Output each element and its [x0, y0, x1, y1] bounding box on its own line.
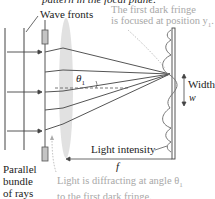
parallel-line2: bundle — [3, 175, 33, 187]
theta-sub: 1 — [81, 79, 85, 87]
diffract-sub: 1 — [179, 181, 183, 189]
fringe-note-line2: is focused at position y — [111, 15, 208, 26]
diffract-line2: to the first dark fringe. — [57, 191, 152, 199]
theta-label: θ1 — [76, 73, 85, 87]
wave-fronts-label: Wave fronts — [40, 9, 93, 20]
parallel-line3: of rays — [3, 187, 33, 199]
w-label: w — [189, 93, 196, 103]
fringe-note: The first dark fringe is focused at posi… — [111, 4, 214, 31]
wave-fronts-leader — [26, 16, 38, 32]
parallel-line1: Parallel — [3, 163, 37, 175]
slit-block-top — [42, 30, 48, 44]
diffract-line1: Light is diffracting at angle θ — [57, 175, 179, 186]
parallel-bundle-label: Parallel bundle of rays — [3, 163, 37, 199]
fringe-note-end: . — [211, 15, 214, 26]
diffraction-note: Light is diffracting at angle θ1 to the … — [57, 175, 183, 199]
light-intensity-label: Light intensity — [91, 144, 155, 155]
focal-length-label: f — [116, 161, 119, 172]
angle-leader — [52, 138, 56, 172]
fringe-note-line1: The first dark fringe — [111, 4, 196, 15]
width-label: Width — [188, 79, 215, 90]
slit-block-bottom — [42, 147, 48, 161]
fringe-leader — [128, 30, 165, 68]
